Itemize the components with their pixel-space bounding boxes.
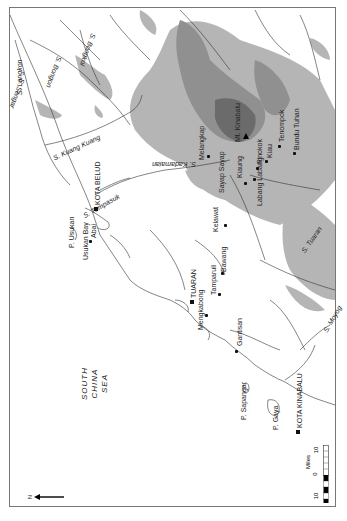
river-label-kadamaian: S. Kadamaian: [152, 161, 196, 168]
north-label: N: [27, 495, 33, 499]
peak-label-mt-kinabalu: Mt. Kinabalu: [234, 103, 241, 142]
town-marker-tuaran: [190, 300, 194, 304]
village-marker-bundu-tuhan: [293, 152, 296, 155]
sea-label: SOUTH CHINA SEA: [80, 367, 110, 400]
village-label-kiau: Kiau: [266, 144, 273, 158]
scale-tick-bottom: 10: [313, 493, 319, 500]
north-arrow: N: [28, 494, 64, 500]
village-label-melangkap: Melangkap: [198, 126, 205, 160]
village-label-kiaung: Kiaung: [236, 156, 243, 178]
town-label-tuaran: TUARAN: [190, 269, 197, 298]
village-marker-bawang: [221, 272, 224, 275]
town-label-kota-belud: KOTA BELUD: [94, 162, 101, 205]
scale-bar-graphic: [323, 445, 329, 503]
village-label-mengkabong: Mengkabong: [197, 290, 204, 330]
island-label-usukan: P. Usukan: [68, 217, 75, 248]
village-marker-tenompok: [278, 145, 281, 148]
village-marker-mengkabong: [205, 314, 208, 317]
village-marker-gantisan: [235, 350, 238, 353]
village-marker-kiaung: [244, 182, 247, 185]
scale-unit-label: Miles: [305, 455, 311, 469]
sea-label-line-1: SOUTH: [80, 367, 90, 400]
bay-label-usukan: Usukan Bay: [82, 222, 89, 260]
village-label-bawang: Bawang: [220, 247, 227, 272]
village-marker-kelawat: [224, 224, 227, 227]
town-label-kota-kinabalu: KOTA KINABALU: [296, 373, 303, 428]
village-label-abai: Abai: [90, 224, 97, 238]
village-marker-kiau: [265, 160, 268, 163]
village-label-labang-labang: Labang Labang: [256, 157, 263, 206]
arrow-left-icon: [34, 494, 70, 500]
town-marker-kota-kinabalu: [296, 430, 300, 434]
village-marker-tamparuli: [218, 293, 221, 296]
village-label-tenompok: Tenompok: [278, 110, 285, 142]
village-label-gantisan: Gantisan: [236, 318, 243, 346]
village-label-sayap-sayap: Sayap Sayap: [218, 151, 225, 193]
island-label-sapangar: P. Sapangar: [240, 382, 247, 420]
village-label-kelawat: Kelawat: [212, 207, 219, 232]
scale-tick-zero: 0: [312, 472, 318, 475]
scale-tick-top: 10: [313, 447, 319, 454]
sea-label-line-2: CHINA: [90, 367, 100, 400]
map: S. Bongkol S. Bongon S. Langkon S. Senga…: [0, 0, 347, 521]
island-label-gaya: P. Gaya: [272, 406, 279, 430]
peak-icon: [243, 133, 249, 139]
sea-label-line-3: SEA: [100, 367, 110, 400]
village-label-bundu-tuhan: Bundu Tuhan: [293, 108, 300, 150]
village-label-tamparuli: Tamparuli: [210, 265, 217, 295]
village-marker-melangkap: [207, 155, 210, 158]
town-marker-kota-belud: [94, 207, 98, 211]
village-marker-abai: [89, 240, 92, 243]
